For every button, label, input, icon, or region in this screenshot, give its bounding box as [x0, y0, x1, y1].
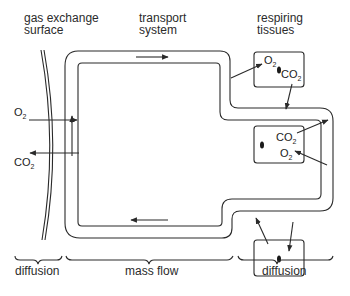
diffusion-right-label: diffusion [262, 264, 306, 278]
gas-exchange-membrane [41, 50, 53, 240]
co2-label-left: CO2 [14, 156, 35, 170]
brace-mass-flow [66, 256, 233, 264]
o2-to-tissue-top-arrow [231, 64, 262, 78]
brace-diffusion-left [15, 256, 62, 264]
o2-label-left: O2 [14, 106, 27, 120]
co2-label-middle: CO2 [276, 131, 297, 145]
co2-label-top: CO2 [281, 68, 302, 82]
o2-to-tissue-bottom-arrow [289, 222, 293, 251]
nucleus-middle [260, 142, 264, 149]
diffusion-left-label: diffusion [15, 264, 59, 278]
co2-from-tissue-top-arrow [286, 84, 292, 109]
mass-flow-label: mass flow [125, 264, 178, 278]
o2-label-middle: O2 [280, 147, 293, 161]
brace-diffusion-right [238, 256, 333, 264]
o2-label-top: O2 [264, 54, 277, 68]
circulation-diagram: O2 CO2 O2 CO2 CO2 O2 [0, 0, 350, 296]
